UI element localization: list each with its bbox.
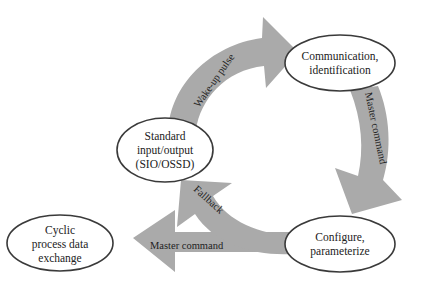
master-command-2-label: Master command bbox=[150, 240, 224, 251]
node-standard-io: Standard input/output (SIO/OSSD) bbox=[117, 118, 213, 182]
io-link-state-diagram: Wake-up pulse Master command Fallback Ma… bbox=[0, 0, 428, 286]
node-standard-io-line-2: input/output bbox=[137, 144, 194, 157]
node-cyclic-line-3: exchange bbox=[38, 252, 81, 265]
node-cyclic: Cyclic process data exchange bbox=[7, 215, 113, 271]
node-communication: Communication, identification bbox=[285, 35, 395, 91]
node-cyclic-line-2: process data bbox=[32, 238, 89, 251]
node-cyclic-line-1: Cyclic bbox=[45, 224, 75, 237]
node-communication-line-1: Communication, bbox=[302, 50, 379, 63]
node-standard-io-line-3: (SIO/OSSD) bbox=[136, 158, 195, 171]
wakeup-arrow: Wake-up pulse bbox=[168, 17, 298, 132]
node-standard-io-line-1: Standard bbox=[145, 130, 186, 142]
node-configure-line-1: Configure, bbox=[315, 231, 365, 244]
node-configure-line-2: parameterize bbox=[310, 245, 369, 258]
node-configure-shape bbox=[285, 216, 395, 272]
wakeup-arrow-body bbox=[168, 17, 298, 132]
node-configure: Configure, parameterize bbox=[285, 216, 395, 272]
master-command-arrow-1: Master command bbox=[335, 86, 402, 214]
node-communication-line-2: identification bbox=[309, 64, 371, 76]
node-communication-shape bbox=[285, 35, 395, 91]
